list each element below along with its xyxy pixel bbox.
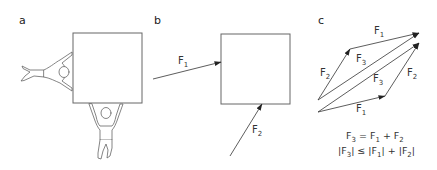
box-b — [221, 34, 290, 104]
lower-f3-label: F3 — [373, 73, 383, 87]
vector-addition-diagram: a b F1 F2 — [0, 0, 437, 170]
left-pushing-figure-icon — [21, 52, 72, 91]
panel-a-label: a — [19, 14, 26, 27]
lower-f1-label: F1 — [356, 103, 366, 117]
lower-f2-label: F2 — [407, 67, 417, 81]
panel-c: c F2 F1 F3 F3 F2 F1 F3 = F1 + F2 |F3| ≤ … — [318, 14, 419, 159]
upper-f3-label: F3 — [356, 53, 366, 67]
lower-f3-arrow — [318, 43, 419, 112]
upper-f1-label: F1 — [374, 25, 384, 39]
panel-b-label: b — [154, 14, 161, 27]
panel-b: b F1 F2 — [153, 14, 290, 156]
vector-f1-label: F1 — [178, 55, 188, 69]
formula-vector-sum: F3 = F1 + F2 — [346, 130, 404, 144]
panel-c-label: c — [318, 14, 324, 27]
upper-f1-arrow — [350, 33, 419, 49]
panel-a: a — [19, 14, 142, 159]
vector-f2-label: F2 — [252, 124, 262, 138]
formula-triangle-inequality: |F3| ≤ |F1| + |F2| — [338, 145, 415, 159]
upper-f2-label: F2 — [320, 67, 330, 81]
lower-f2-arrow — [385, 43, 419, 96]
bottom-pushing-figure-icon — [89, 104, 123, 159]
lower-f1-arrow — [318, 96, 385, 112]
box-a — [73, 33, 142, 103]
